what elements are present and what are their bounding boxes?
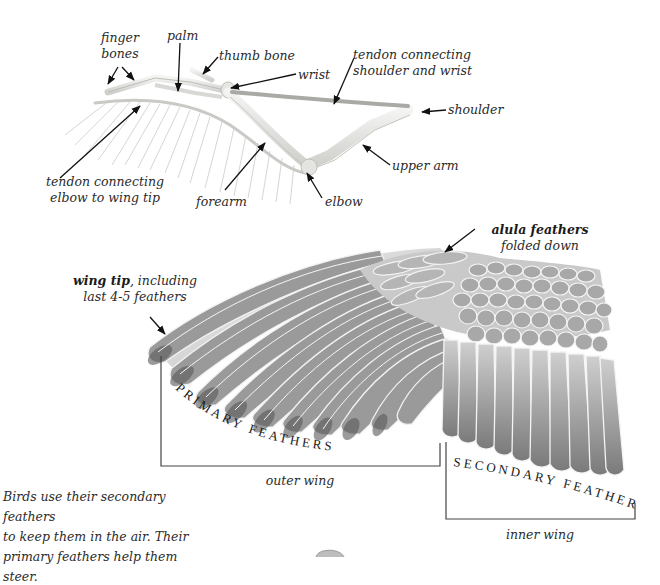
label-thumb-bone: thumb bone (219, 48, 295, 64)
label-upper-arm: upper arm (392, 158, 459, 174)
label-forearm: forearm (196, 194, 247, 210)
label-tendon-shoulder-wrist: tendon connecting shoulder and wrist (353, 47, 472, 79)
page-tab-decoration (316, 550, 344, 557)
label-inner-wing: inner wing (500, 527, 580, 543)
label-alula-feathers: alula feathers folded down (480, 222, 600, 254)
label-shoulder: shoulder (448, 102, 503, 118)
label-finger-bones: finger bones (100, 30, 140, 62)
caption-text: Birds use their secondary feathers to ke… (3, 487, 203, 585)
label-outer-wing: outer wing (260, 473, 340, 489)
secondary-feathers (442, 340, 624, 475)
label-palm: palm (167, 28, 198, 44)
label-elbow: elbow (325, 194, 363, 210)
label-tendon-elbow-tip: tendon connecting elbow to wing tip (40, 174, 170, 206)
label-wing-tip: wing tip, including last 4-5 feathers (70, 273, 200, 305)
label-wrist: wrist (298, 67, 330, 83)
